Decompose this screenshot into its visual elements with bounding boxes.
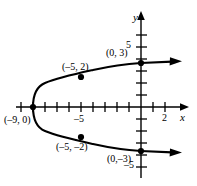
y-axis-label: y	[133, 12, 138, 23]
point-lower-mid	[78, 134, 84, 140]
parabola-upper-branch	[33, 62, 172, 107]
coordinate-plane-svg	[0, 0, 197, 186]
x-axis-label: x	[180, 112, 185, 123]
parabola-graph-figure: y x –5 2 5 –5 (–9, 0) (–5, 2) (–5, –2) (…	[0, 0, 197, 186]
point-lower-intercept	[138, 148, 144, 154]
lower-branch-arrowhead	[170, 148, 182, 156]
point-label-upper-mid: (–5, 2)	[62, 62, 89, 72]
x-tick-label-neg5: –5	[74, 114, 84, 124]
y-axis-arrowhead	[137, 11, 145, 20]
point-label-lower-intercept: (0,–3)	[107, 154, 131, 164]
point-upper-intercept	[138, 60, 144, 66]
parabola-curve	[33, 64, 176, 107]
point-vertex	[30, 104, 36, 110]
x-axis-arrowhead	[180, 103, 189, 111]
point-label-lower-mid: (–5, –2)	[56, 142, 88, 152]
parabola-lower-branch	[33, 107, 172, 152]
point-label-upper-intercept: (0, 3)	[106, 48, 128, 58]
point-upper-mid	[78, 74, 84, 80]
point-label-vertex: (–9, 0)	[4, 115, 31, 125]
x-tick-label-2: 2	[162, 113, 167, 123]
upper-branch-arrowhead	[170, 57, 182, 65]
